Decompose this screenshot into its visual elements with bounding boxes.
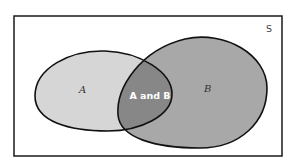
intersection-label: A and B <box>129 90 170 101</box>
set-b-label: B <box>203 83 211 94</box>
set-a-label: A <box>78 84 86 95</box>
venn-diagram: S A B A and B <box>0 0 294 165</box>
universe-label: S <box>266 23 272 34</box>
